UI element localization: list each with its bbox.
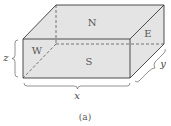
face-label-south: S (86, 56, 93, 67)
z-brace (12, 40, 18, 77)
dimension-label-z: z (2, 52, 9, 63)
face-label-east: E (144, 28, 151, 39)
dimension-label-y: y (159, 58, 166, 69)
face-label-west: W (32, 45, 43, 56)
figure-caption: (a) (79, 112, 91, 122)
box-diagram-figure: N S E W z x y (a) (0, 0, 171, 126)
x-brace (24, 83, 130, 89)
box-diagram: N S E W z x y (a) (0, 0, 171, 126)
dimension-label-x: x (74, 90, 80, 101)
face-label-north: N (88, 17, 97, 28)
